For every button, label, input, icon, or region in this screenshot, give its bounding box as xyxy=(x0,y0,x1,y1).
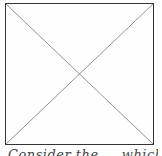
image-placeholder xyxy=(5,3,154,145)
crossed-box-icon xyxy=(6,4,153,144)
caption-text: Consider the ... which xyxy=(8,146,158,156)
